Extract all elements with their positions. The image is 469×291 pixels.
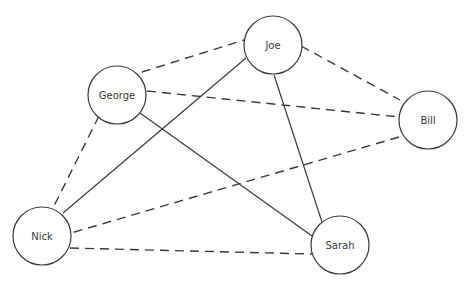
- node-label: George: [99, 90, 135, 101]
- nodes-layer: GeorgeJoeBillNickSarah: [13, 16, 457, 274]
- edge-joe-bill-dashed: [301, 46, 400, 100]
- edge-george-sarah-solid: [140, 113, 312, 236]
- edge-george-nick-dashed: [53, 116, 99, 208]
- node-label: Bill: [420, 115, 435, 126]
- node-george: George: [88, 66, 146, 124]
- edge-joe-sarah-solid: [274, 75, 322, 222]
- node-joe: Joe: [244, 16, 302, 74]
- node-bill: Bill: [399, 91, 457, 149]
- node-nick: Nick: [13, 207, 71, 265]
- edge-george-joe-dashed: [142, 40, 244, 72]
- network-diagram: GeorgeJoeBillNickSarah: [0, 0, 469, 291]
- node-sarah: Sarah: [311, 216, 369, 274]
- edge-nick-sarah-dashed: [70, 248, 312, 254]
- edge-george-bill-dashed: [147, 91, 399, 117]
- node-label: Nick: [31, 231, 53, 242]
- node-label: Sarah: [325, 240, 354, 251]
- node-label: Joe: [264, 40, 280, 51]
